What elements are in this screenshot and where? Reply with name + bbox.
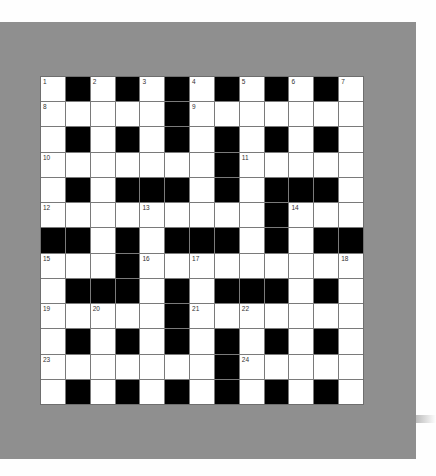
letter-cell[interactable]	[91, 254, 115, 278]
letter-cell[interactable]	[190, 355, 214, 379]
letter-cell[interactable]: 13	[140, 203, 164, 227]
letter-cell[interactable]	[289, 127, 313, 151]
letter-cell[interactable]	[339, 355, 363, 379]
letter-cell[interactable]	[165, 355, 189, 379]
letter-cell[interactable]	[339, 279, 363, 303]
letter-cell[interactable]: 2	[91, 77, 115, 101]
letter-cell[interactable]	[91, 127, 115, 151]
letter-cell[interactable]	[140, 127, 164, 151]
letter-cell[interactable]	[190, 127, 214, 151]
letter-cell[interactable]: 10	[41, 153, 65, 177]
letter-cell[interactable]	[66, 203, 90, 227]
letter-cell[interactable]	[66, 355, 90, 379]
letter-cell[interactable]	[91, 153, 115, 177]
letter-cell[interactable]	[215, 304, 239, 328]
letter-cell[interactable]	[190, 178, 214, 202]
letter-cell[interactable]	[265, 153, 289, 177]
letter-cell[interactable]	[215, 102, 239, 126]
letter-cell[interactable]	[190, 203, 214, 227]
letter-cell[interactable]: 9	[190, 102, 214, 126]
letter-cell[interactable]	[190, 329, 214, 353]
letter-cell[interactable]	[116, 153, 140, 177]
letter-cell[interactable]	[314, 153, 338, 177]
letter-cell[interactable]: 14	[289, 203, 313, 227]
letter-cell[interactable]	[215, 203, 239, 227]
letter-cell[interactable]	[66, 153, 90, 177]
letter-cell[interactable]	[240, 127, 264, 151]
letter-cell[interactable]	[165, 203, 189, 227]
letter-cell[interactable]	[240, 203, 264, 227]
letter-cell[interactable]	[289, 254, 313, 278]
letter-cell[interactable]	[339, 153, 363, 177]
letter-cell[interactable]	[314, 102, 338, 126]
letter-cell[interactable]	[240, 228, 264, 252]
letter-cell[interactable]	[41, 127, 65, 151]
letter-cell[interactable]: 23	[41, 355, 65, 379]
letter-cell[interactable]	[91, 102, 115, 126]
letter-cell[interactable]	[289, 228, 313, 252]
letter-cell[interactable]: 24	[240, 355, 264, 379]
letter-cell[interactable]	[116, 203, 140, 227]
letter-cell[interactable]	[314, 304, 338, 328]
letter-cell[interactable]	[91, 178, 115, 202]
letter-cell[interactable]	[339, 102, 363, 126]
letter-cell[interactable]	[91, 203, 115, 227]
letter-cell[interactable]	[66, 102, 90, 126]
letter-cell[interactable]	[265, 355, 289, 379]
letter-cell[interactable]	[339, 329, 363, 353]
letter-cell[interactable]: 16	[140, 254, 164, 278]
letter-cell[interactable]: 1	[41, 77, 65, 101]
letter-cell[interactable]: 21	[190, 304, 214, 328]
letter-cell[interactable]	[190, 279, 214, 303]
letter-cell[interactable]	[140, 228, 164, 252]
letter-cell[interactable]: 15	[41, 254, 65, 278]
letter-cell[interactable]: 3	[140, 77, 164, 101]
letter-cell[interactable]	[289, 279, 313, 303]
letter-cell[interactable]	[240, 329, 264, 353]
letter-cell[interactable]	[339, 127, 363, 151]
letter-cell[interactable]	[140, 380, 164, 404]
letter-cell[interactable]	[140, 329, 164, 353]
letter-cell[interactable]	[140, 355, 164, 379]
letter-cell[interactable]	[289, 153, 313, 177]
letter-cell[interactable]	[240, 254, 264, 278]
letter-cell[interactable]	[289, 329, 313, 353]
letter-cell[interactable]	[140, 304, 164, 328]
letter-cell[interactable]: 17	[190, 254, 214, 278]
letter-cell[interactable]	[314, 203, 338, 227]
letter-cell[interactable]	[289, 102, 313, 126]
letter-cell[interactable]	[190, 153, 214, 177]
letter-cell[interactable]: 22	[240, 304, 264, 328]
letter-cell[interactable]	[66, 304, 90, 328]
letter-cell[interactable]	[140, 102, 164, 126]
letter-cell[interactable]: 7	[339, 77, 363, 101]
letter-cell[interactable]	[289, 380, 313, 404]
letter-cell[interactable]	[116, 355, 140, 379]
letter-cell[interactable]: 20	[91, 304, 115, 328]
letter-cell[interactable]	[265, 254, 289, 278]
letter-cell[interactable]	[240, 102, 264, 126]
letter-cell[interactable]	[91, 228, 115, 252]
letter-cell[interactable]: 6	[289, 77, 313, 101]
letter-cell[interactable]: 11	[240, 153, 264, 177]
letter-cell[interactable]	[215, 254, 239, 278]
letter-cell[interactable]	[91, 380, 115, 404]
letter-cell[interactable]: 18	[339, 254, 363, 278]
letter-cell[interactable]	[91, 329, 115, 353]
letter-cell[interactable]	[289, 355, 313, 379]
letter-cell[interactable]	[190, 380, 214, 404]
letter-cell[interactable]	[265, 304, 289, 328]
letter-cell[interactable]	[41, 329, 65, 353]
letter-cell[interactable]: 19	[41, 304, 65, 328]
letter-cell[interactable]: 5	[240, 77, 264, 101]
letter-cell[interactable]	[165, 153, 189, 177]
letter-cell[interactable]	[339, 380, 363, 404]
letter-cell[interactable]	[116, 304, 140, 328]
letter-cell[interactable]	[339, 304, 363, 328]
letter-cell[interactable]	[339, 178, 363, 202]
letter-cell[interactable]	[41, 380, 65, 404]
letter-cell[interactable]	[91, 355, 115, 379]
letter-cell[interactable]: 4	[190, 77, 214, 101]
letter-cell[interactable]	[314, 355, 338, 379]
letter-cell[interactable]	[314, 254, 338, 278]
